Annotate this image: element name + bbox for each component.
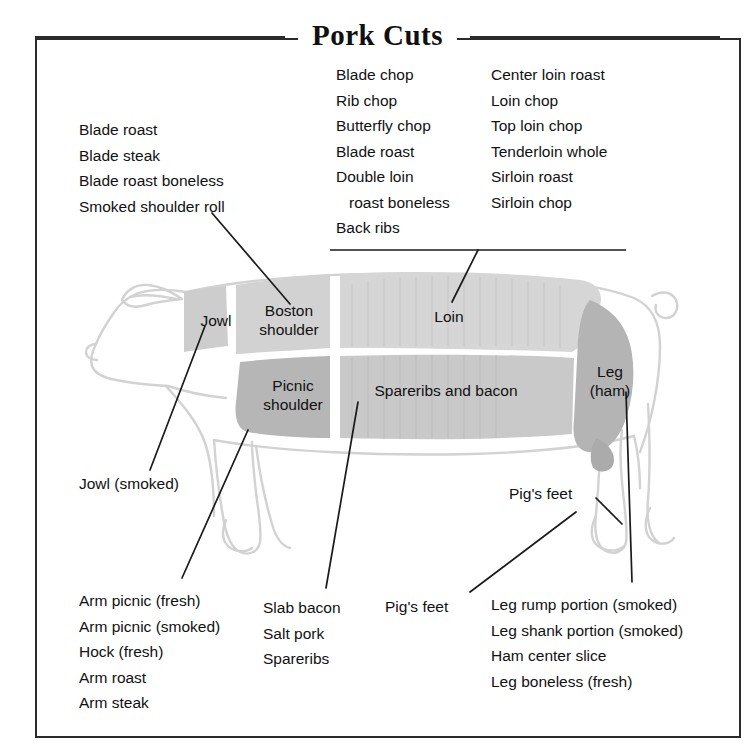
list-item: Smoked shoulder roll (79, 194, 225, 220)
list-item: Blade roast (79, 117, 225, 143)
list-item: Back ribs (336, 215, 450, 241)
region-label-leg-ham: Leg (ham) (580, 362, 640, 400)
list-item: Spareribs (263, 646, 341, 672)
region-label-line: shoulder (246, 320, 332, 339)
list-item: Tenderloin whole (491, 139, 607, 165)
region-label-line: Picnic (250, 376, 336, 395)
list-item: Arm steak (79, 690, 220, 716)
list-item: Blade steak (79, 143, 225, 169)
region-label-line: (ham) (580, 381, 640, 400)
leader-pigs-feet-front (470, 512, 576, 592)
list-item: Center loin roast (491, 62, 607, 88)
list-item: Arm picnic (fresh) (79, 588, 220, 614)
list-item: roast boneless (336, 190, 450, 216)
list-item: Slab bacon (263, 595, 341, 621)
region-label-jowl: Jowl (190, 311, 242, 330)
list-item: Blade roast (336, 139, 450, 165)
list-item: Arm roast (79, 665, 220, 691)
list-item: Hock (fresh) (79, 639, 220, 665)
list-item: Butterfly chop (336, 113, 450, 139)
callout-jowl-smoked: Jowl (smoked) (79, 474, 179, 494)
list-item: Salt pork (263, 621, 341, 647)
loin-cuts-column-1: Blade chop Rib chop Butterfly chop Blade… (336, 62, 450, 241)
list-item: Arm picnic (smoked) (79, 614, 220, 640)
leader-jowl-to-jowl-smoked (150, 326, 205, 470)
region-label-line: Leg (580, 362, 640, 381)
list-item: Leg shank portion (smoked) (491, 618, 683, 644)
leg-ham-cuts-list: Leg rump portion (smoked) Leg shank port… (491, 592, 683, 694)
bacon-cuts-list: Slab bacon Salt pork Spareribs (263, 595, 341, 672)
callout-pigs-feet-front: Pig's feet (385, 597, 448, 617)
list-item: Sirloin chop (491, 190, 607, 216)
list-item: Rib chop (336, 88, 450, 114)
region-label-line: shoulder (250, 395, 336, 414)
region-label-boston-shoulder: Boston shoulder (246, 301, 332, 339)
list-item: Double loin (336, 164, 450, 190)
list-item: Blade chop (336, 62, 450, 88)
region-label-line: Boston (246, 301, 332, 320)
region-label-spareribs-and-bacon: Spareribs and bacon (356, 381, 536, 400)
list-item: Top loin chop (491, 113, 607, 139)
loin-cuts-column-2: Center loin roast Loin chop Top loin cho… (491, 62, 607, 215)
arm-picnic-cuts-list: Arm picnic (fresh) Arm picnic (smoked) H… (79, 588, 220, 716)
leader-pigs-feet-rear (596, 498, 622, 524)
shoulder-cuts-list: Blade roast Blade steak Blade roast bone… (79, 117, 225, 219)
region-label-picnic-shoulder: Picnic shoulder (250, 376, 336, 414)
list-item: Sirloin roast (491, 164, 607, 190)
list-item: Blade roast boneless (79, 168, 225, 194)
region-label-loin: Loin (423, 307, 475, 326)
list-item: Loin chop (491, 88, 607, 114)
list-item: Leg boneless (fresh) (491, 669, 683, 695)
pork-cuts-diagram: Pork Cuts (0, 0, 755, 756)
list-item: Ham center slice (491, 643, 683, 669)
leader-leg-to-leg-list (626, 392, 632, 582)
list-item: Leg rump portion (smoked) (491, 592, 683, 618)
callout-pigs-feet-rear: Pig's feet (509, 484, 572, 504)
